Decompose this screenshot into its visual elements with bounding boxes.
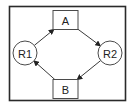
node-r2: R2 — [98, 41, 122, 65]
edge-b-to-r1 — [34, 61, 55, 80]
edge-a-to-r2 — [78, 29, 100, 46]
node-a: A — [53, 11, 78, 30]
node-label-r1: R1 — [18, 48, 32, 60]
edges-layer — [34, 29, 101, 79]
node-r1: R1 — [13, 41, 37, 65]
edge-r2-to-b — [77, 61, 100, 80]
node-label-b: B — [62, 84, 69, 96]
nodes-layer: AR2BR1 — [13, 11, 122, 99]
cycle-diagram: AR2BR1 — [0, 0, 132, 109]
node-label-a: A — [62, 15, 70, 27]
node-label-r2: R2 — [103, 48, 117, 60]
edge-r1-to-a — [34, 30, 54, 46]
node-b: B — [53, 80, 78, 99]
